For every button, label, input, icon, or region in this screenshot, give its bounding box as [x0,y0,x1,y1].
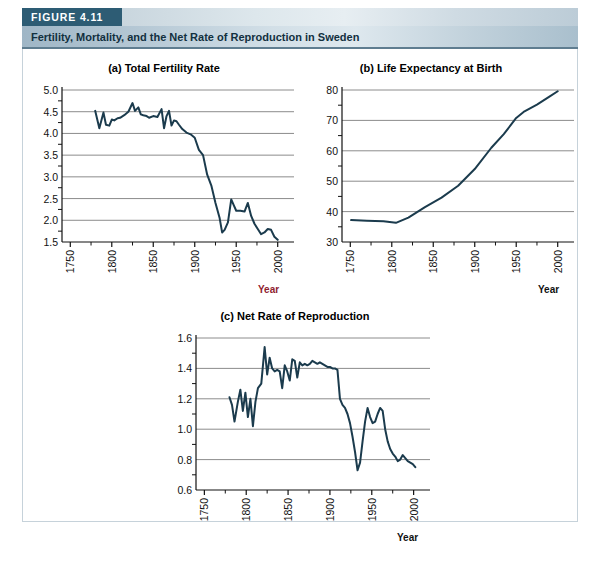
y-tick-label: 2.0 [26,214,58,226]
y-tick-label: 1.0 [160,423,192,435]
x-tick-label: 1850 [427,250,439,273]
data-line-c [229,347,415,470]
panel-c-plot-area [196,338,422,490]
y-tick-label: 50 [306,175,338,187]
panel-net-rate-of-reproduction: (c) Net Rate of Reproduction 0.60.81.01.… [150,310,450,550]
x-tick-label: 1800 [240,498,252,521]
x-tick-label: 1950 [366,498,378,521]
x-tick-label: 1950 [230,250,242,273]
x-tick-label: 2000 [552,250,564,273]
y-tick-label: 40 [306,206,338,218]
figure-caption-bar: Fertility, Mortality, and the Net Rate o… [22,26,578,47]
y-tick-label: 1.5 [26,236,58,248]
y-tick-label: 0.6 [160,484,192,496]
x-tick-label: 1750 [64,250,76,273]
x-tick-label: 1850 [147,250,159,273]
panel-c-title: (c) Net Rate of Reproduction [150,310,440,322]
y-tick-label: 60 [306,145,338,157]
x-tick-label: 1900 [189,250,201,273]
y-tick-label: 5.0 [26,84,58,96]
x-tick-label: 1900 [324,498,336,521]
x-tick-label: 1750 [344,250,356,273]
y-tick-label: 4.5 [26,106,58,118]
y-tick-label: 1.6 [160,332,192,344]
y-tick-label: 4.0 [26,127,58,139]
y-tick-label: 70 [306,114,338,126]
x-tick-label: 1800 [106,250,118,273]
y-tick-label: 2.5 [26,193,58,205]
y-tick-label: 3.0 [26,171,58,183]
x-tick-label: 1900 [469,250,481,273]
y-tick-label: 80 [306,84,338,96]
x-tick-label: 1950 [510,250,522,273]
panel-a-title: (a) Total Fertility Rate [26,62,302,74]
panel-c-x-axis-label: Year [397,532,418,543]
figure-number-tab: FIGURE 4.11 [22,8,122,26]
figure-caption-text: Fertility, Mortality, and the Net Rate o… [22,31,359,43]
data-line-a [95,103,278,240]
figure-root: FIGURE 4.11 Fertility, Mortality, and th… [0,0,597,570]
x-tick-label: 1800 [386,250,398,273]
x-tick-label: 1850 [282,498,294,521]
x-tick-label: 2000 [408,498,420,521]
panel-b-x-axis-label: Year [538,284,559,295]
data-line-b [351,91,558,223]
panel-total-fertility-rate: (a) Total Fertility Rate 1.52.02.53.03.5… [26,62,302,297]
x-tick-label: 2000 [272,250,284,273]
panel-b-plot-area [342,90,566,242]
y-tick-label: 0.8 [160,454,192,466]
panel-a-plot-area [62,90,286,242]
y-tick-label: 1.4 [160,362,192,374]
panel-b-title: (b) Life Expectancy at Birth [306,62,556,74]
y-tick-label: 3.5 [26,149,58,161]
panel-life-expectancy: (b) Life Expectancy at Birth 30405060708… [306,62,582,297]
x-tick-label: 1750 [198,498,210,521]
y-tick-label: 1.2 [160,393,192,405]
figure-number-label: FIGURE 4.11 [22,11,103,23]
panel-a-x-axis-label: Year [258,284,279,295]
y-tick-label: 30 [306,236,338,248]
